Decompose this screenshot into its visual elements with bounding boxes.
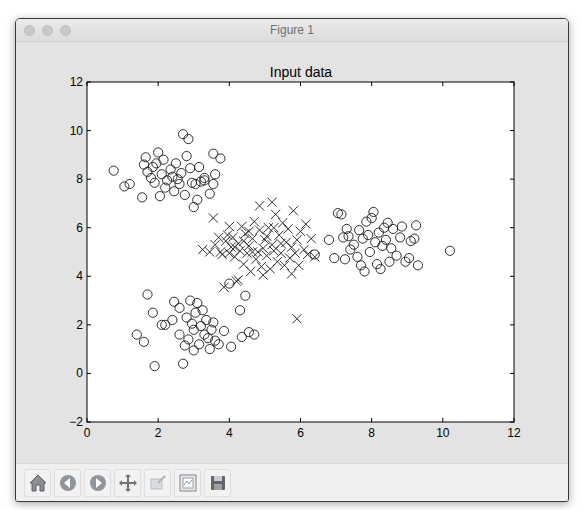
- x-tick-label: 6: [297, 426, 304, 440]
- y-tick-label: 4: [76, 269, 83, 283]
- floppy-disk-icon: [208, 473, 228, 493]
- x-tick-label: 4: [226, 426, 233, 440]
- navigation-toolbar: [16, 463, 568, 501]
- zoom-button[interactable]: [144, 469, 171, 497]
- save-button[interactable]: [204, 469, 231, 497]
- move-arrows-icon: [118, 473, 138, 493]
- subplots-button[interactable]: [174, 469, 201, 497]
- figure-window: Figure 1 Input data 024681012 −202468101…: [15, 18, 569, 502]
- home-icon: [28, 473, 48, 493]
- x-tick-label: 8: [368, 426, 375, 440]
- x-tick-label: 10: [436, 426, 450, 440]
- zoom-rect-icon: [148, 473, 168, 493]
- x-tick-label: 2: [155, 426, 162, 440]
- pan-button[interactable]: [114, 469, 141, 497]
- y-tick-label: 0: [76, 366, 83, 380]
- y-tick-label: 12: [70, 75, 84, 89]
- x-tick-label: 12: [507, 426, 521, 440]
- chart-title: Input data: [270, 64, 332, 80]
- back-button[interactable]: [54, 469, 81, 497]
- title-bar[interactable]: Figure 1: [16, 19, 568, 42]
- scatter-chart[interactable]: Input data 024681012 −2024681012: [16, 42, 568, 463]
- plot-area: [87, 82, 514, 422]
- subplots-config-icon: [178, 473, 198, 493]
- x-tick-label: 0: [84, 426, 91, 440]
- y-tick-label: −2: [69, 415, 83, 429]
- home-button[interactable]: [24, 469, 51, 497]
- y-tick-label: 2: [76, 318, 83, 332]
- y-tick-label: 6: [76, 221, 83, 235]
- y-tick-label: 8: [76, 172, 83, 186]
- arrow-right-icon: [88, 473, 108, 493]
- arrow-left-icon: [58, 473, 78, 493]
- figure-canvas[interactable]: Input data 024681012 −2024681012: [16, 42, 568, 463]
- forward-button[interactable]: [84, 469, 111, 497]
- window-title: Figure 1: [16, 23, 568, 37]
- y-tick-label: 10: [70, 124, 84, 138]
